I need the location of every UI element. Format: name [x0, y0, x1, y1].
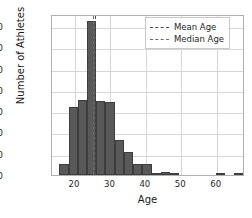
x-tick-label: 20 [69, 180, 80, 189]
y-axis-label: Number of Athletes [15, 0, 26, 116]
x-tick-label: 50 [175, 180, 186, 189]
histogram-bar [142, 164, 151, 175]
x-axis-label: Age [51, 194, 244, 205]
histogram-bar [161, 172, 170, 175]
histogram-bar [152, 173, 161, 175]
x-tick-label: 60 [210, 180, 221, 189]
histogram-bar [216, 173, 225, 175]
y-tick-label: 300 [0, 44, 3, 53]
y-tick-label: 250 [0, 66, 3, 75]
y-tick-label: 200 [0, 87, 3, 96]
legend-label-median: Median Age [174, 35, 224, 44]
histogram-bar [96, 101, 105, 175]
histogram-bar [69, 107, 78, 175]
y-tick-label: 150 [0, 108, 3, 117]
y-tick-label: 350 [0, 23, 3, 32]
gridline-horizontal [52, 92, 243, 93]
mean-line [95, 16, 96, 175]
y-tick-label: 100 [0, 129, 3, 138]
histogram-bar [59, 164, 68, 175]
histogram-bar [105, 102, 114, 175]
histogram-figure: 050100150200250300350 2030405060 Number … [0, 0, 252, 218]
x-tick-label: 40 [139, 180, 150, 189]
gridline-horizontal [52, 71, 243, 72]
histogram-bar [115, 140, 124, 175]
legend-label-mean: Mean Age [174, 23, 216, 32]
dashed-line-icon [150, 27, 169, 28]
histogram-bar [234, 173, 243, 175]
y-tick-label: 50 [0, 151, 3, 160]
histogram-bar [133, 164, 142, 175]
x-tick-label: 30 [104, 180, 115, 189]
legend-item-median: Median Age [150, 33, 224, 45]
histogram-bar [78, 100, 87, 175]
y-tick-label: 0 [0, 172, 3, 181]
gridline-horizontal [52, 49, 243, 50]
legend: Mean Age Median Age [145, 17, 230, 49]
dashed-line-icon [150, 39, 169, 40]
legend-item-mean: Mean Age [150, 21, 224, 33]
median-line [93, 16, 94, 175]
histogram-bar [170, 173, 179, 175]
histogram-bar [124, 152, 133, 175]
